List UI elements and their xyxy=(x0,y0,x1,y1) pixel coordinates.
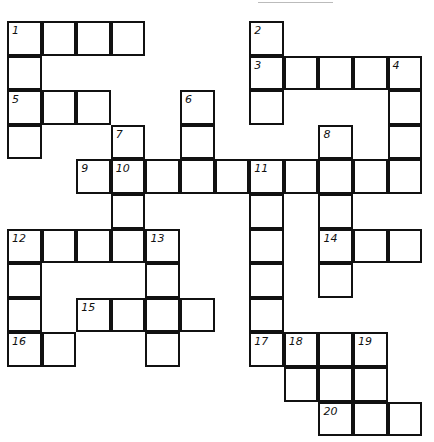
crossword-cell-13[interactable]: 13 xyxy=(145,229,180,264)
crossword-cell-15[interactable]: 15 xyxy=(76,298,111,333)
crossword-cell[interactable] xyxy=(145,332,180,367)
crossword-cell-10[interactable]: 10 xyxy=(111,159,146,194)
crossword-cell[interactable] xyxy=(318,56,353,91)
crossword-cell[interactable] xyxy=(284,159,319,194)
crossword-cell-5[interactable]: 5 xyxy=(7,90,42,125)
clue-number: 17 xyxy=(254,335,268,348)
crossword-cell[interactable] xyxy=(7,263,42,298)
crossword-cell-14[interactable]: 14 xyxy=(318,229,353,264)
crossword-cell[interactable] xyxy=(353,229,388,264)
clue-number: 2 xyxy=(254,24,261,37)
clue-number: 7 xyxy=(116,128,123,141)
crossword-cell[interactable] xyxy=(145,298,180,333)
crossword-cell[interactable] xyxy=(111,298,146,333)
crossword-cell-6[interactable]: 6 xyxy=(180,90,215,125)
crossword-cell[interactable] xyxy=(249,194,284,229)
crossword-cell-7[interactable]: 7 xyxy=(111,125,146,160)
crossword-cell[interactable] xyxy=(145,159,180,194)
crossword-cell[interactable] xyxy=(249,90,284,125)
crossword-cell[interactable] xyxy=(388,229,423,264)
crossword-cell[interactable] xyxy=(76,90,111,125)
clue-number: 11 xyxy=(254,162,268,175)
crossword-cell[interactable] xyxy=(318,263,353,298)
clue-number: 13 xyxy=(150,232,164,245)
crossword-cell[interactable] xyxy=(180,125,215,160)
crossword-cell[interactable] xyxy=(111,21,146,56)
clue-number: 19 xyxy=(358,335,372,348)
crossword-cell[interactable] xyxy=(249,229,284,264)
clue-number: 6 xyxy=(185,93,192,106)
crossword-cell-1[interactable]: 1 xyxy=(7,21,42,56)
crossword-cell[interactable] xyxy=(7,56,42,91)
crossword-cell[interactable] xyxy=(353,367,388,402)
crossword-cell[interactable] xyxy=(180,159,215,194)
crossword-cell[interactable] xyxy=(7,298,42,333)
crossword-cell[interactable] xyxy=(215,159,250,194)
crossword-cell-9[interactable]: 9 xyxy=(76,159,111,194)
crossword-cell[interactable] xyxy=(42,229,77,264)
crossword-cell[interactable] xyxy=(111,229,146,264)
crossword-cell[interactable] xyxy=(249,263,284,298)
crossword-cell[interactable] xyxy=(7,125,42,160)
crossword-cell[interactable] xyxy=(284,56,319,91)
crossword-grid: 1234567891011121314151617181920 xyxy=(0,0,434,442)
clue-number: 14 xyxy=(323,232,337,245)
crossword-cell-2[interactable]: 2 xyxy=(249,21,284,56)
crossword-cell[interactable] xyxy=(111,194,146,229)
crossword-cell[interactable] xyxy=(42,21,77,56)
crossword-cell[interactable] xyxy=(76,21,111,56)
crossword-cell[interactable] xyxy=(353,159,388,194)
crossword-cell-19[interactable]: 19 xyxy=(353,332,388,367)
clue-number: 5 xyxy=(12,93,19,106)
crossword-cell-8[interactable]: 8 xyxy=(318,125,353,160)
crossword-cell-20[interactable]: 20 xyxy=(318,402,353,437)
crossword-cell[interactable] xyxy=(42,332,77,367)
clue-number: 3 xyxy=(254,59,261,72)
crossword-cell[interactable] xyxy=(353,402,388,437)
crossword-cell[interactable] xyxy=(42,90,77,125)
clue-number: 12 xyxy=(12,232,26,245)
crossword-cell[interactable] xyxy=(353,56,388,91)
crossword-cell-3[interactable]: 3 xyxy=(249,56,284,91)
clue-number: 16 xyxy=(12,335,26,348)
crossword-cell[interactable] xyxy=(388,402,423,437)
clue-number: 15 xyxy=(81,301,95,314)
crossword-cell[interactable] xyxy=(388,125,423,160)
clue-number: 10 xyxy=(116,162,130,175)
clue-number: 4 xyxy=(393,59,400,72)
crossword-cell-16[interactable]: 16 xyxy=(7,332,42,367)
crossword-cell[interactable] xyxy=(318,159,353,194)
crossword-cell[interactable] xyxy=(318,332,353,367)
crossword-cell-17[interactable]: 17 xyxy=(249,332,284,367)
crossword-cell-11[interactable]: 11 xyxy=(249,159,284,194)
crossword-cell-18[interactable]: 18 xyxy=(284,332,319,367)
clue-number: 8 xyxy=(323,128,330,141)
crossword-cell[interactable] xyxy=(145,263,180,298)
crossword-cell[interactable] xyxy=(318,367,353,402)
crossword-cell[interactable] xyxy=(76,229,111,264)
crossword-cell-12[interactable]: 12 xyxy=(7,229,42,264)
crossword-cell[interactable] xyxy=(388,159,423,194)
crossword-cell-4[interactable]: 4 xyxy=(388,56,423,91)
clue-number: 20 xyxy=(323,405,337,418)
crossword-cell[interactable] xyxy=(249,298,284,333)
crossword-cell[interactable] xyxy=(318,194,353,229)
clue-number: 18 xyxy=(289,335,303,348)
crossword-cell[interactable] xyxy=(284,367,319,402)
crossword-cell[interactable] xyxy=(180,298,215,333)
clue-number: 1 xyxy=(12,24,19,37)
crossword-cell[interactable] xyxy=(388,90,423,125)
clue-number: 9 xyxy=(81,162,88,175)
